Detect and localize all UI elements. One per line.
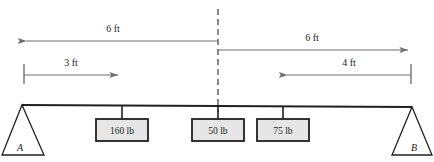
dimension-6ft-left-label: 6 ft — [106, 23, 120, 34]
support-B: B — [392, 107, 432, 155]
beam-diagram-figure: 6 ft 6 ft 3 ft 4 ft A B — [0, 0, 434, 162]
dimension-4ft-label: 4 ft — [342, 57, 356, 68]
dimension-3ft-label: 3 ft — [64, 57, 78, 68]
support-A: A — [2, 105, 44, 155]
dimension-6ft-right-label: 6 ft — [305, 32, 319, 43]
dimension-6ft-left: 6 ft — [26, 23, 218, 41]
dimension-4ft: 4 ft — [287, 57, 411, 84]
dimension-6ft-right: 6 ft — [218, 32, 408, 50]
beam-member — [22, 105, 412, 107]
load-50lb: 50 lb — [192, 106, 244, 141]
support-A-label: A — [16, 142, 24, 153]
beam-diagram-svg: 6 ft 6 ft 3 ft 4 ft A B — [0, 0, 434, 162]
load-160lb-label: 160 lb — [110, 126, 134, 136]
load-75lb: 75 lb — [257, 106, 309, 141]
dimension-3ft: 3 ft — [24, 57, 118, 84]
load-50lb-label: 50 lb — [208, 126, 228, 136]
load-75lb-label: 75 lb — [273, 126, 293, 136]
load-160lb: 160 lb — [96, 106, 148, 141]
support-B-label: B — [411, 142, 417, 153]
